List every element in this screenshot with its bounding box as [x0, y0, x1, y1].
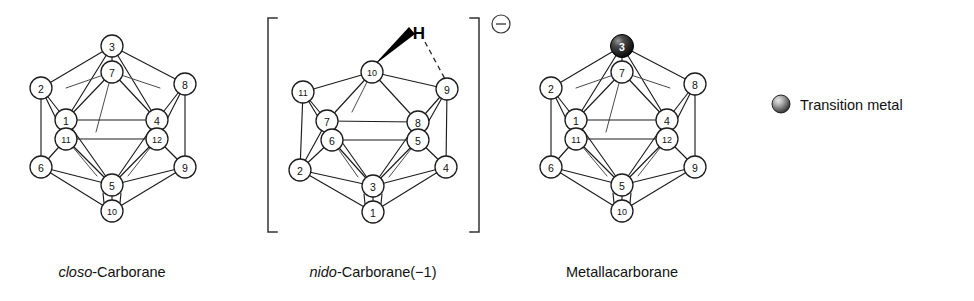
vertex-10: 10 — [101, 200, 123, 222]
vertex-1: 1 — [362, 201, 384, 223]
svg-text:3: 3 — [109, 41, 115, 53]
vertex-7: 7 — [101, 61, 123, 83]
vertex-12: 12 — [656, 128, 678, 150]
vertex-3-transition-metal: 3 — [611, 35, 634, 58]
svg-text:7: 7 — [109, 67, 115, 79]
svg-text:6: 6 — [38, 162, 44, 174]
svg-text:3: 3 — [370, 181, 376, 193]
vertex-10: 10 — [611, 200, 633, 222]
svg-text:8: 8 — [692, 79, 698, 91]
vertex-9: 9 — [436, 78, 458, 100]
svg-text:6: 6 — [329, 135, 335, 147]
svg-text:2: 2 — [297, 165, 303, 177]
caption-closo-italic: closo — [58, 264, 92, 280]
svg-text:6: 6 — [548, 162, 554, 174]
vertex-2: 2 — [540, 77, 562, 99]
vertex-3: 3 — [101, 35, 123, 57]
svg-text:4: 4 — [443, 162, 449, 174]
vertex-8: 8 — [684, 73, 706, 95]
vertex-11: 11 — [55, 128, 77, 150]
svg-text:11: 11 — [61, 135, 70, 145]
svg-text:5: 5 — [109, 180, 115, 192]
vertex-9: 9 — [684, 156, 706, 178]
vertex-10: 10 — [361, 61, 383, 83]
svg-text:4: 4 — [154, 115, 160, 127]
svg-text:11: 11 — [571, 135, 580, 145]
vertex-6: 6 — [321, 129, 343, 151]
vertex-6: 6 — [540, 156, 562, 178]
svg-text:10: 10 — [617, 207, 627, 217]
svg-text:1: 1 — [573, 115, 579, 127]
svg-text:7: 7 — [619, 67, 625, 79]
caption-nido-roman: -Carborane(−1) — [337, 264, 437, 280]
svg-text:2: 2 — [548, 83, 554, 95]
svg-text:10: 10 — [107, 207, 117, 217]
svg-text:5: 5 — [619, 180, 625, 192]
vertex-3: 3 — [362, 175, 384, 197]
vertex-11: 11 — [292, 81, 314, 103]
svg-text:10: 10 — [367, 68, 377, 78]
vertex-2: 2 — [30, 77, 52, 99]
svg-text:12: 12 — [152, 135, 162, 145]
vertex-7: 7 — [611, 61, 633, 83]
hydrogen-label: H — [413, 24, 425, 43]
svg-text:2: 2 — [38, 83, 44, 95]
vertex-8: 8 — [174, 73, 196, 95]
svg-text:9: 9 — [444, 84, 450, 96]
svg-text:7: 7 — [324, 116, 330, 128]
svg-text:4: 4 — [664, 115, 670, 127]
vertex-11: 11 — [565, 128, 587, 150]
svg-text:12: 12 — [662, 135, 672, 145]
svg-text:11: 11 — [298, 88, 307, 98]
vertex-5: 5 — [407, 129, 429, 151]
vertex-4: 4 — [435, 156, 457, 178]
svg-text:9: 9 — [182, 162, 188, 174]
svg-text:3: 3 — [619, 41, 625, 53]
caption-closo-roman: -Carborane — [92, 264, 165, 280]
carborane-structures-figure: 3 7 2 8 1 11 4 12 6 9 5 10 closo-Carbora… — [0, 0, 974, 301]
svg-text:8: 8 — [415, 117, 421, 129]
svg-text:9: 9 — [692, 162, 698, 174]
svg-text:1: 1 — [370, 207, 376, 219]
caption-closo: closo-Carborane — [58, 264, 165, 280]
caption-nido: nido-Carborane(−1) — [310, 264, 437, 280]
svg-text:5: 5 — [415, 135, 421, 147]
svg-text:8: 8 — [182, 79, 188, 91]
vertex-5: 5 — [611, 174, 633, 196]
vertex-2: 2 — [289, 159, 311, 181]
vertex-12: 12 — [146, 128, 168, 150]
vertex-6: 6 — [30, 156, 52, 178]
caption-nido-italic: nido — [310, 264, 337, 280]
vertex-9: 9 — [174, 156, 196, 178]
legend-transition-metal-label: Transition metal — [800, 97, 903, 113]
caption-metallacarborane: Metallacarborane — [566, 264, 678, 280]
transition-metal-marker-icon — [772, 95, 790, 113]
svg-text:1: 1 — [63, 115, 69, 127]
vertex-5: 5 — [101, 174, 123, 196]
